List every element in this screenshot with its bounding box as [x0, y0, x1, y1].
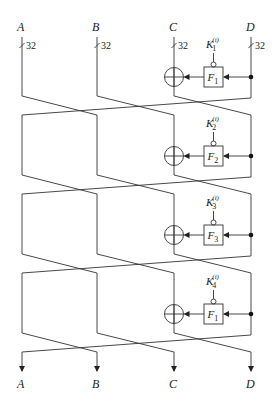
wire-a-r2 — [22, 115, 97, 194]
round-3: F3 K3(i) — [165, 194, 254, 245]
bit-width-annotations: 32 32 32 32 — [20, 40, 266, 51]
round-4: F1 K4(i) — [165, 273, 254, 324]
input-label-a: A — [16, 20, 25, 34]
key-input-circle — [211, 220, 216, 225]
junction-dot-icon — [249, 233, 254, 238]
output-label-c: C — [169, 377, 178, 391]
input-label-d: D — [245, 20, 255, 34]
output-label-a: A — [16, 377, 25, 391]
wire-b-r3 — [97, 194, 174, 273]
key-input-circle — [211, 62, 216, 67]
wire-a-r4 — [22, 273, 97, 371]
feistel-diagram: A B C D 32 32 32 32 — [0, 0, 279, 405]
wire-d-r3 — [22, 194, 251, 273]
bits-d: 32 — [255, 40, 265, 51]
wire-b-r2 — [97, 115, 174, 194]
bits-b: 32 — [101, 40, 111, 51]
input-label-b: B — [92, 20, 100, 34]
junction-dot-icon — [249, 154, 254, 159]
function-label: F3 — [207, 229, 219, 244]
round-2: F2 K2(i) — [165, 115, 254, 166]
wire-d-r2 — [22, 115, 251, 194]
output-label-d: D — [245, 377, 255, 391]
bits-a: 32 — [26, 40, 36, 51]
junction-dot-icon — [249, 75, 254, 80]
function-label: F1 — [207, 308, 219, 323]
output-labels: A B C D — [16, 377, 255, 391]
wire-a-r3 — [22, 194, 97, 273]
junction-dot-icon — [249, 312, 254, 317]
input-label-c: C — [169, 20, 178, 34]
input-labels: A B C D — [16, 20, 255, 34]
output-label-b: B — [92, 377, 100, 391]
key-label: K4(i) — [205, 273, 220, 290]
key-input-circle — [211, 141, 216, 146]
function-label: F2 — [207, 150, 219, 165]
key-label: K1(i) — [205, 36, 220, 53]
wire-b-r4 — [97, 273, 174, 371]
bits-c: 32 — [178, 40, 188, 51]
key-label: K2(i) — [205, 115, 220, 132]
key-label: K3(i) — [205, 194, 220, 211]
key-input-circle — [211, 299, 216, 304]
function-label: F1 — [207, 71, 219, 86]
